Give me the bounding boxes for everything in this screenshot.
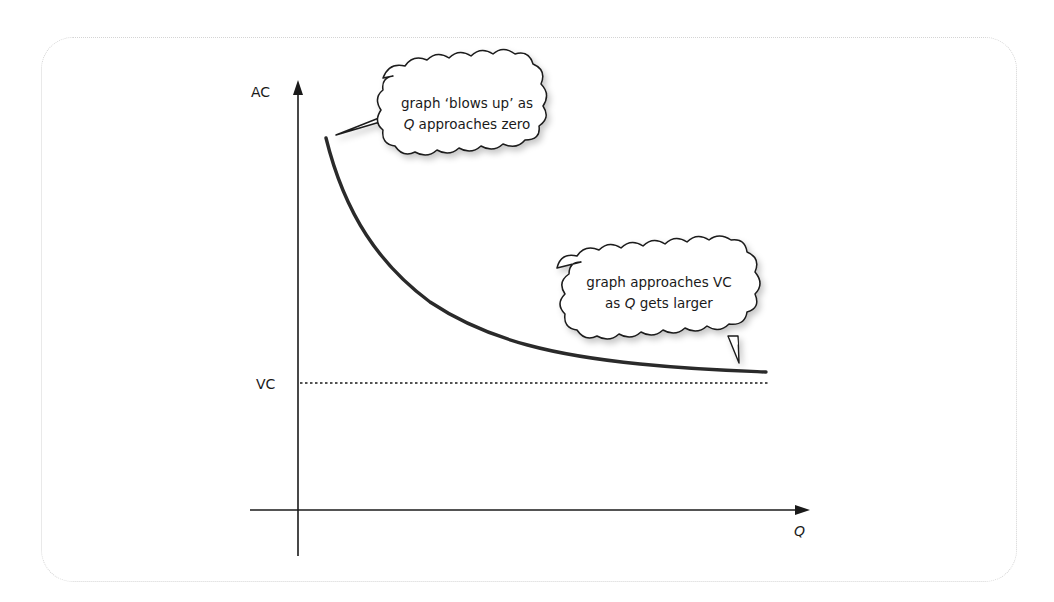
x-axis (250, 505, 810, 515)
callout-top-line2: approaches zero (414, 116, 530, 132)
y-axis-label: AC (251, 85, 270, 99)
callout-bottom-text: graph approaches VC as Q gets larger (574, 272, 744, 314)
x-axis-arrow-icon (795, 505, 810, 515)
callout-bottom-q: Q (625, 295, 636, 311)
y-axis-arrow-icon (293, 80, 303, 95)
callout-top-line1: graph ‘blows up’ as (401, 95, 533, 111)
y-axis (293, 80, 303, 556)
callout-bottom-line1: graph approaches VC (586, 274, 731, 290)
callout-bottom-line2-pre: as (605, 295, 625, 311)
callout-top-text: graph ‘blows up’ as Q approaches zero (392, 93, 542, 135)
cost-diagram (0, 0, 1054, 602)
vc-label: VC (256, 377, 275, 391)
callout-bottom-line2-post: gets larger (635, 295, 713, 311)
x-axis-label: Q (794, 524, 805, 538)
callout-top-q: Q (404, 116, 415, 132)
